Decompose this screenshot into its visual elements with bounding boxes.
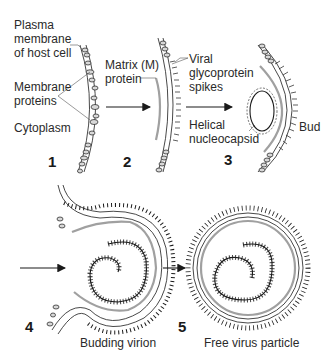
step4-nucleocapsid [90, 242, 146, 302]
step-number-1: 1 [48, 153, 56, 170]
label-glycoprotein-spikes: Viral glycoprotein spikes [189, 52, 254, 94]
step-number-4: 4 [25, 318, 33, 335]
step-number-3: 3 [224, 151, 232, 168]
label-matrix-protein: Matrix (M) protein [105, 58, 159, 86]
step-number-2: 2 [123, 153, 131, 170]
label-plasma-membrane: Plasma membrane of host cell [14, 18, 71, 60]
step5-nucleocapsid [215, 244, 272, 300]
label-helical-nucleocapsid: Helical nucleocapsid [189, 118, 259, 146]
step4-virion-membrane [52, 185, 168, 334]
step3-membrane-proteins [259, 44, 274, 172]
step3-matrix-layer [260, 66, 282, 152]
step4-matrix-layer [72, 222, 156, 311]
matrix-protein-layer [156, 78, 160, 140]
step4-membrane-proteins [47, 217, 65, 326]
caption-budding-virion: Budding virion [80, 336, 156, 350]
label-bud: Bud [299, 120, 320, 134]
step3-bud-membrane [258, 45, 292, 172]
label-cytoplasm: Cytoplasm [14, 121, 71, 135]
caption-free-virus-particle: Free virus particle [204, 336, 299, 350]
label-membrane-proteins: Membrane proteins [14, 80, 71, 108]
step5-virus-envelope [188, 208, 308, 328]
step-number-5: 5 [178, 318, 186, 335]
